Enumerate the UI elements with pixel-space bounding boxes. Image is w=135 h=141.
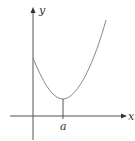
tick-label-a: a	[60, 120, 67, 133]
graph-figure: y x a	[0, 0, 135, 141]
x-axis-label: x	[128, 110, 135, 123]
y-axis-arrow-icon	[31, 7, 36, 13]
x-axis-arrow-icon	[121, 114, 127, 119]
function-curve	[33, 20, 106, 99]
y-axis-label: y	[38, 4, 46, 17]
